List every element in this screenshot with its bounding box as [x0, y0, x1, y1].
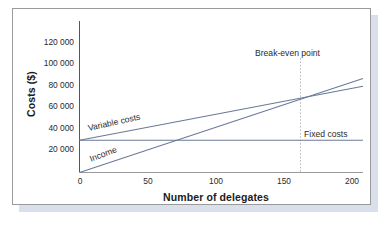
x-tick-label-50: 50	[128, 176, 168, 186]
y-tick-label: 100 000	[12, 58, 74, 68]
x-tick-label-100: 100	[196, 176, 236, 186]
x-tick-label-200: 200	[332, 176, 372, 186]
series-label-fixed-costs: Fixed costs	[304, 129, 347, 139]
y-tick-label: 60 000	[12, 101, 74, 111]
y-tick-label: 80 000	[12, 80, 74, 90]
x-tick-label-150: 150	[264, 176, 304, 186]
annotation-label-break-even-point: Break-even point	[255, 48, 320, 58]
x-axis-title: Number of delegates	[80, 191, 352, 203]
y-axis-title: Costs ($)	[25, 49, 37, 139]
y-tick-label: 120 000	[12, 37, 74, 47]
y-tick-label: 20 000	[12, 144, 74, 154]
y-tick-label: 40 000	[12, 123, 74, 133]
chart-plot-area: 120 000 100 000 80 000 60 000 40 000 20 …	[0, 0, 392, 234]
x-tick-label-0: 0	[60, 176, 100, 186]
